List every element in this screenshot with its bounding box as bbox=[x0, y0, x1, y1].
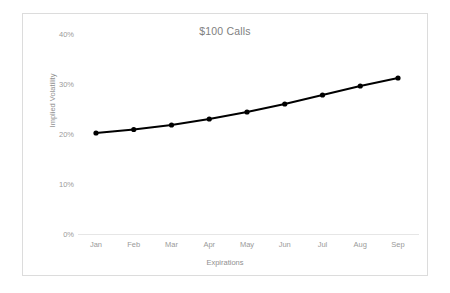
y-axis-tick-label: 10% bbox=[40, 180, 74, 189]
y-axis-tick-label: 0% bbox=[40, 230, 74, 239]
y-axis-tick-label: 20% bbox=[40, 130, 74, 139]
y-axis-tick-label: 30% bbox=[40, 80, 74, 89]
y-axis-tick-label: 40% bbox=[40, 30, 74, 39]
x-axis-title: Expirations bbox=[0, 258, 450, 267]
chart-screenshot: $100 Calls 0%10%20%30%40% Expirations Im… bbox=[0, 0, 450, 293]
chart-frame bbox=[22, 13, 428, 276]
y-axis-title: Implied Volatility bbox=[48, 41, 57, 161]
x-axis-line bbox=[78, 234, 419, 235]
x-axis-tick-label: Sep bbox=[376, 240, 420, 249]
